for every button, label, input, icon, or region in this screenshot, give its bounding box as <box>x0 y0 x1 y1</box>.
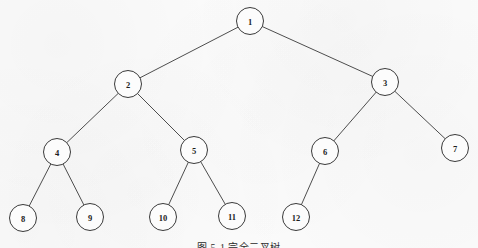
tree-edge <box>395 91 445 138</box>
tree-node[interactable]: 2 <box>115 71 142 98</box>
tree-edge <box>140 27 238 78</box>
tree-edge <box>63 164 84 205</box>
tree-node[interactable]: 5 <box>181 137 208 164</box>
tree-node-label: 11 <box>228 212 236 222</box>
tree-node[interactable]: 3 <box>372 69 399 96</box>
tree-edge <box>334 92 376 141</box>
tree-node[interactable]: 10 <box>150 204 177 231</box>
tree-node[interactable]: 4 <box>44 139 71 166</box>
tree-edge <box>169 162 189 205</box>
tree-edge <box>301 163 319 204</box>
tree-node[interactable]: 1 <box>237 8 264 35</box>
tree-node-label: 12 <box>292 213 301 223</box>
tree-edge <box>138 94 185 141</box>
tree-edge <box>29 164 51 206</box>
figure-caption: 图 5-1 完全二叉树 <box>0 241 478 248</box>
tree-edges-group <box>29 27 445 206</box>
figure-container: 123456789101112 图 5-1 完全二叉树 <box>0 0 478 248</box>
tree-node-label: 1 <box>248 17 252 27</box>
tree-node[interactable]: 8 <box>10 205 37 232</box>
tree-node[interactable]: 9 <box>77 204 104 231</box>
tree-edge <box>201 162 226 205</box>
tree-node-label: 3 <box>383 78 387 88</box>
tree-edge <box>262 27 372 77</box>
tree-nodes-group: 123456789101112 <box>10 8 469 232</box>
binary-tree-diagram: 123456789101112 <box>0 0 478 248</box>
tree-node[interactable]: 12 <box>283 204 310 231</box>
tree-node-label: 9 <box>88 213 92 223</box>
tree-node-label: 6 <box>323 147 327 157</box>
tree-node-label: 10 <box>159 213 168 223</box>
tree-node[interactable]: 7 <box>442 135 469 162</box>
tree-node[interactable]: 11 <box>219 203 246 230</box>
tree-node-label: 2 <box>126 80 130 90</box>
tree-node-label: 5 <box>192 146 196 156</box>
tree-edge <box>67 93 119 142</box>
tree-node[interactable]: 6 <box>312 138 339 165</box>
tree-node-label: 8 <box>21 214 25 224</box>
